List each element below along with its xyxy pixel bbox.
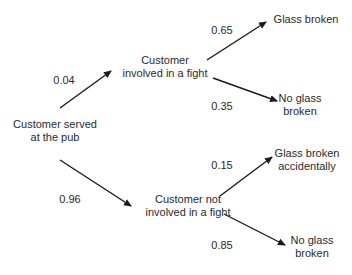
node-fight-no-glass-line-1: No glass [279, 92, 322, 105]
prob-root-to-fight: 0.04 [53, 74, 74, 87]
node-nofight-glass-broken-line-1: Glass broken [275, 147, 340, 160]
prob-fight-to-glass-broken: 0.65 [211, 24, 232, 37]
node-fight-glass-broken: Glass broken [274, 13, 339, 26]
edge-nofight-to-no-glass-arrow [224, 214, 285, 245]
node-fight-line-1: Customer [123, 54, 208, 67]
node-no-fight: Customer not involved in a fight [146, 193, 231, 219]
node-root-line-1: Customer served [13, 118, 97, 131]
node-fight-line-2: involved in a fight [123, 67, 208, 80]
node-fight-glass-broken-line-1: Glass broken [274, 13, 339, 26]
node-no-fight-line-2: involved in a fight [146, 206, 231, 219]
node-fight-no-glass-line-2: broken [279, 105, 322, 118]
node-fight-no-glass: No glass broken [279, 92, 322, 118]
node-nofight-no-glass-line-2: broken [291, 247, 334, 260]
node-root-line-2: at the pub [13, 131, 97, 144]
node-nofight-no-glass: No glass broken [291, 234, 334, 260]
prob-nofight-to-no-glass: 0.85 [211, 239, 232, 252]
edge-fight-to-no-glass-arrow [213, 78, 277, 101]
node-fight: Customer involved in a fight [123, 54, 208, 80]
prob-fight-to-no-glass: 0.35 [211, 100, 232, 113]
prob-nofight-to-glass-broken: 0.15 [211, 159, 232, 172]
node-nofight-glass-broken: Glass broken accidentally [275, 147, 340, 173]
node-root: Customer served at the pub [13, 118, 97, 144]
node-nofight-glass-broken-line-2: accidentally [275, 160, 340, 173]
node-no-fight-line-1: Customer not [146, 193, 231, 206]
prob-root-to-no-fight: 0.96 [59, 193, 80, 206]
node-nofight-no-glass-line-1: No glass [291, 234, 334, 247]
